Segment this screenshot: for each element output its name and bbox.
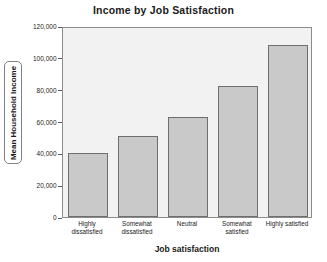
x-axis: Highly dissatisfiedSomewhat dissatisfied… [62,220,312,244]
x-axis-tick-label: Neutral [162,220,212,228]
y-axis-tick-label: 60,000 [37,118,57,128]
chart-container: Income by Job Satisfaction 020,00040,000… [0,0,327,262]
x-axis-tick-label: Highly dissatisfied [62,220,112,235]
y-axis-tick: 80,000 [37,86,62,96]
bar[interactable] [68,153,108,217]
y-axis-tick-label: 20,000 [37,181,57,191]
x-axis-title: Job satisfaction [62,244,312,254]
bars-layer [63,28,311,217]
x-axis-tick-label: Somewhat dissatisfied [112,220,162,235]
y-axis-tick: 40,000 [37,149,62,159]
bar[interactable] [118,136,158,217]
bar[interactable] [168,117,208,217]
y-axis-tick: 120,000 [33,22,62,32]
bar[interactable] [268,45,308,217]
y-axis-tick: 0 [53,213,62,223]
y-axis-tick-label: 80,000 [37,86,57,96]
y-axis-tick: 60,000 [37,118,62,128]
bar[interactable] [218,86,258,217]
y-axis-tick-label: 100,000 [33,54,57,64]
y-axis-tick-label: 40,000 [37,149,57,159]
plot-area [62,27,312,218]
y-axis-tick-label: 120,000 [33,22,57,32]
y-axis-title: Mean Household Income [9,65,18,159]
y-axis-tick: 100,000 [33,54,62,64]
x-axis-tick-label: Somewhat satisfied [212,220,262,235]
x-axis-tick-label: Highly satisfied [262,220,312,228]
y-axis-title-box[interactable]: Mean Household Income [4,61,22,164]
y-axis-tick-label: 0 [53,213,57,223]
y-axis-tick: 20,000 [37,181,62,191]
